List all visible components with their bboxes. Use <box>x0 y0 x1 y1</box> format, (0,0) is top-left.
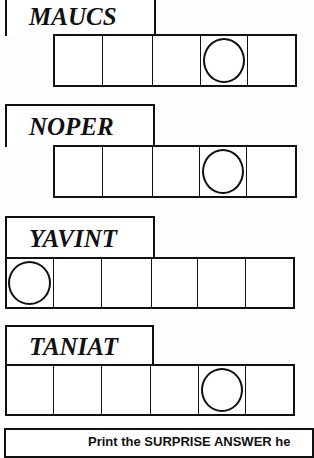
circle-marker-icon <box>201 368 243 412</box>
letter-cell[interactable] <box>245 258 295 308</box>
letter-cell[interactable] <box>102 146 153 197</box>
letter-cell[interactable] <box>151 258 198 308</box>
letter-cell[interactable] <box>247 35 296 86</box>
letter-cell[interactable] <box>150 365 199 415</box>
scrambled-word: NOPER <box>29 113 114 141</box>
letter-cell[interactable] <box>53 146 103 197</box>
letter-cell[interactable] <box>102 35 153 86</box>
letter-cell[interactable] <box>53 35 103 86</box>
circle-marker-icon <box>203 38 245 83</box>
circle-marker-icon <box>202 149 244 194</box>
letter-cell[interactable] <box>53 258 102 308</box>
letter-cell[interactable] <box>152 35 201 86</box>
scrambled-word-box: YAVINT <box>5 216 155 259</box>
scrambled-word: YAVINT <box>29 225 117 253</box>
letter-cell[interactable] <box>5 365 54 415</box>
letter-cell-circled[interactable] <box>200 35 248 86</box>
surprise-answer-box[interactable]: Print the SURPRISE ANSWER he <box>4 428 314 458</box>
letter-cell[interactable] <box>245 365 294 415</box>
scrambled-word-box: TANIAT <box>5 325 154 366</box>
letter-cell[interactable] <box>246 146 296 197</box>
circle-marker-icon <box>8 261 51 305</box>
letter-cell[interactable] <box>197 258 246 308</box>
letter-cell-circled[interactable] <box>199 146 247 197</box>
letter-cell-circled[interactable] <box>5 258 54 308</box>
answer-instruction: Print the SURPRISE ANSWER he <box>88 434 290 449</box>
letter-cell-circled[interactable] <box>198 365 246 415</box>
letter-cell[interactable] <box>101 258 152 308</box>
letter-cell[interactable] <box>53 365 102 415</box>
scrambled-word-box: NOPER <box>5 104 155 147</box>
letter-cell[interactable] <box>101 365 151 415</box>
scrambled-word: TANIAT <box>29 333 118 361</box>
scrambled-word-box: MAUCS <box>5 0 156 36</box>
scrambled-word: MAUCS <box>29 3 117 31</box>
letter-cell[interactable] <box>152 146 200 197</box>
